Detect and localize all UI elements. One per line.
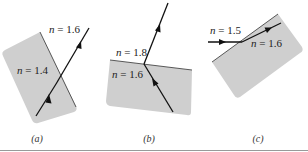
panel-a-upper-index-label: n = 1.6 [49,23,80,35]
panel-b-refracted-ray [144,3,168,64]
refraction-diagram: n = 1.4 n = 1.6 (a) n = 1.8 n = 1.6 (b) … [0,0,308,152]
panel-c: n = 1.5 n = 1.6 (c) [208,14,303,145]
panel-b-lower-index-label: n = 1.6 [112,68,143,80]
panel-c-outer-index-label: n = 1.5 [210,24,241,36]
panel-a-caption: (a) [31,133,43,145]
panel-a: n = 1.4 n = 1.6 (a) [2,23,89,145]
panel-a-refracted-ray [56,28,89,84]
panel-c-inner-index-label: n = 1.6 [251,37,282,49]
panel-a-lower-index-label: n = 1.4 [17,64,48,76]
panel-b-upper-index-label: n = 1.8 [116,46,147,58]
panel-b-caption: (b) [143,133,155,145]
panel-c-caption: (c) [252,133,264,145]
panel-b: n = 1.8 n = 1.6 (b) [106,3,192,145]
panel-b-arrow-icon-refracted [155,24,161,33]
panel-c-arrow-icon-incident [219,39,226,45]
